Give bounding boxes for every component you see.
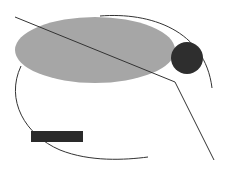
- dark-label-box: [31, 131, 83, 142]
- diagram-canvas: [0, 0, 225, 174]
- dark-circle: [171, 42, 203, 74]
- diagonal-line-lower: [175, 82, 214, 160]
